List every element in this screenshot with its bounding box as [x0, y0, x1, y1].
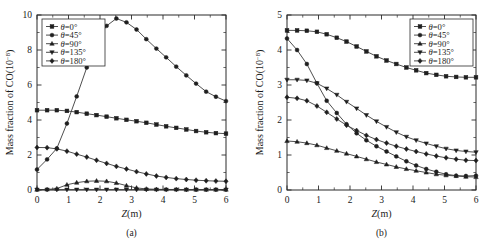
y-tick-label: 1	[277, 150, 282, 160]
marker-diamond	[424, 151, 428, 156]
marker-square	[224, 132, 228, 136]
marker-square	[325, 32, 329, 36]
series-line	[37, 147, 226, 181]
figure-container: 01234560246810Z(m)Mass fraction of CO(10…	[0, 0, 502, 248]
marker-circle	[194, 82, 198, 86]
x-axis-label-unit: (m)	[127, 208, 141, 220]
marker-square	[335, 36, 339, 40]
marker-triangle-down	[364, 114, 368, 118]
marker-diamond	[285, 95, 289, 100]
marker-square	[50, 25, 54, 29]
marker-diamond	[184, 177, 188, 182]
marker-triangle-up	[285, 139, 289, 143]
y-tick-label: 0	[277, 185, 282, 195]
marker-square	[144, 121, 148, 125]
marker-diamond	[124, 167, 128, 172]
marker-circle	[154, 47, 158, 51]
y-tick-label: 4	[277, 45, 282, 55]
marker-square	[385, 59, 389, 63]
y-tick-label: 0	[27, 185, 32, 195]
marker-circle	[135, 28, 139, 32]
marker-triangle-down	[335, 93, 339, 97]
series-θ=180°	[35, 145, 228, 184]
marker-diamond	[214, 179, 218, 184]
marker-square	[295, 29, 299, 33]
marker-square	[164, 124, 168, 128]
marker-triangle-down	[324, 87, 328, 91]
marker-diamond	[295, 96, 299, 101]
marker-square	[55, 108, 59, 112]
marker-diamond	[164, 175, 168, 180]
marker-square	[454, 75, 458, 79]
y-axis-label: Mass fraction of CO(10−8)	[4, 50, 16, 156]
x-axis-label: Z(m)	[121, 208, 141, 220]
series-θ=180°	[285, 95, 478, 163]
marker-square	[474, 75, 478, 79]
marker-diamond	[224, 179, 228, 184]
marker-square	[434, 73, 438, 77]
x-tick-label: 0	[35, 195, 40, 205]
marker-square	[95, 113, 99, 117]
marker-circle	[335, 111, 339, 115]
legend-value: =180°	[65, 56, 87, 66]
marker-diamond	[454, 157, 458, 162]
marker-square	[105, 115, 109, 119]
marker-diamond	[45, 145, 49, 150]
panel-tag: (b)	[376, 228, 387, 239]
marker-square	[155, 123, 159, 127]
marker-square	[375, 54, 379, 58]
marker-square	[125, 118, 129, 122]
x-tick-label: 1	[66, 195, 71, 205]
y-tick-label: 5	[277, 10, 282, 20]
x-tick-label: 2	[348, 195, 353, 205]
marker-circle	[65, 122, 69, 126]
legend: θ=0°θ=45°θ=90°θ=135°θ=180°	[42, 19, 105, 66]
legend-value: =180°	[433, 56, 455, 66]
panel-tag: (a)	[126, 228, 137, 239]
marker-diamond	[434, 154, 438, 159]
marker-triangle-down	[474, 151, 478, 155]
marker-diamond	[335, 116, 339, 121]
marker-diamond	[364, 133, 368, 138]
y-tick-label: 2	[277, 115, 282, 125]
y-tick-label: 2	[27, 150, 32, 160]
marker-square	[115, 116, 119, 120]
marker-square	[315, 30, 319, 34]
marker-diamond	[384, 141, 388, 146]
series-θ=135°	[285, 78, 478, 154]
y-axis-label-main: Mass fraction of CO(10	[254, 60, 266, 155]
marker-diamond	[325, 110, 329, 115]
marker-circle	[285, 37, 289, 41]
legend-label-4: θ=180°	[61, 56, 87, 66]
x-tick-label: 1	[316, 195, 321, 205]
chart-svg-(b): 0123456012345Z(m)Mass fraction of CO(10−…	[251, 0, 502, 248]
marker-circle	[125, 20, 129, 24]
marker-square	[424, 71, 428, 75]
marker-diamond	[194, 178, 198, 183]
marker-square	[355, 45, 359, 49]
marker-diamond	[464, 158, 468, 163]
marker-square	[405, 66, 409, 70]
marker-circle	[174, 65, 178, 69]
marker-square	[194, 129, 198, 133]
marker-circle	[164, 55, 168, 59]
marker-diamond	[114, 164, 118, 169]
marker-square	[65, 109, 69, 113]
x-tick-label: 6	[474, 195, 479, 205]
marker-diamond	[474, 158, 478, 163]
marker-circle	[418, 33, 422, 37]
marker-diamond	[85, 155, 89, 160]
marker-diamond	[154, 174, 158, 179]
marker-diamond	[35, 145, 39, 150]
marker-diamond	[65, 149, 69, 154]
marker-square	[444, 74, 448, 78]
marker-square	[414, 68, 418, 72]
x-tick-label: 3	[129, 195, 134, 205]
marker-square	[214, 131, 218, 135]
x-tick-label: 2	[98, 195, 103, 205]
y-axis-label: Mass fraction of CO(10−8)	[254, 50, 266, 156]
y-tick-label: 6	[27, 80, 32, 90]
legend-label-4: θ=180°	[429, 56, 455, 66]
marker-circle	[50, 33, 54, 37]
marker-circle	[394, 154, 398, 158]
